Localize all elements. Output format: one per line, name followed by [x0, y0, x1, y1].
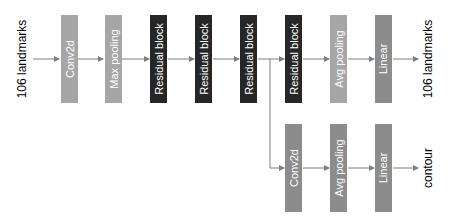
residual-block-4: Residual block [285, 15, 302, 103]
residual-block-2: Residual block [195, 15, 212, 103]
contour-avg-pooling-block: Avg pooling [330, 124, 347, 212]
residual-block-1: Residual block [150, 15, 167, 103]
landmarks-output-label: 106 landmarks [419, 15, 437, 103]
contour-output-label: contour [419, 124, 437, 212]
max-pooling-block: Max pooling [105, 15, 122, 103]
linear-block: Linear [375, 15, 392, 103]
contour-conv2d-block: Conv2d [285, 124, 302, 212]
avg-pooling-block: Avg pooling [330, 15, 347, 103]
conv2d-block: Conv2d [61, 15, 78, 103]
residual-block-3: Residual block [240, 15, 257, 103]
input-label: 106 landmarks [13, 15, 31, 103]
contour-linear-block: Linear [375, 124, 392, 212]
